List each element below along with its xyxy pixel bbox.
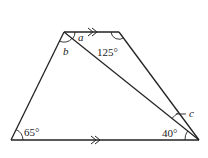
trapezium-diagram: a b c 125° 65° 40° bbox=[0, 0, 208, 158]
label-angle-65: 65° bbox=[24, 126, 39, 138]
angle-arc-65 bbox=[16, 130, 23, 141]
label-angle-40: 40° bbox=[162, 127, 177, 139]
angle-arc-a bbox=[73, 32, 75, 39]
label-c: c bbox=[189, 107, 194, 119]
left-side bbox=[11, 32, 64, 140]
label-b: b bbox=[63, 45, 69, 57]
label-angle-125: 125° bbox=[97, 46, 118, 58]
angle-arc-b bbox=[60, 38, 73, 42]
angle-arc-40 bbox=[185, 131, 188, 140]
label-a: a bbox=[78, 31, 84, 43]
